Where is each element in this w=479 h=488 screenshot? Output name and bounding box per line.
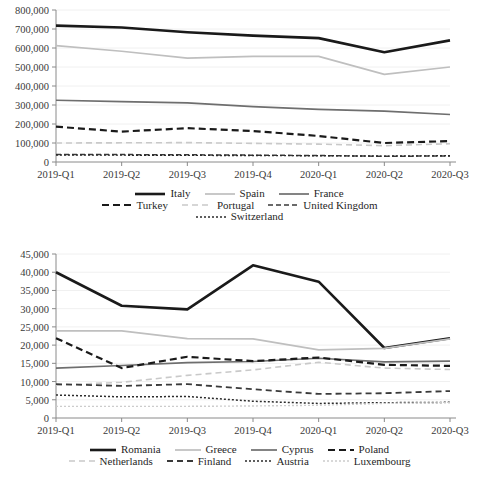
series-line-romania — [56, 265, 450, 348]
y-axis-tick-label: 20,000 — [20, 340, 49, 351]
y-axis-tick-label: 0 — [44, 413, 49, 424]
legend-swatch-italy — [135, 189, 165, 199]
bottom-line-chart-figure: 05,00010,00015,00020,00025,00030,00035,0… — [0, 240, 479, 488]
legend-label: Italy — [170, 188, 190, 200]
legend-entry-poland[interactable]: Poland — [328, 444, 390, 456]
x-axis-tick-label: 2019-Q1 — [37, 425, 74, 436]
x-axis-tick-label: 2020-Q2 — [366, 169, 403, 180]
legend-label: Poland — [359, 444, 390, 456]
x-axis-tick-label: 2020-Q1 — [300, 425, 337, 436]
legend-entry-netherlands[interactable]: Netherlands — [69, 456, 153, 468]
legend-entry-finland[interactable]: Finland — [167, 456, 232, 468]
legend-entry-turkey[interactable]: Turkey — [102, 200, 168, 212]
y-axis-tick-label: 35,000 — [20, 285, 49, 296]
y-axis-tick-label: 300,000 — [15, 100, 49, 111]
x-axis-tick-label: 2020-Q1 — [300, 169, 337, 180]
legend-entry-greece[interactable]: Greece — [175, 444, 237, 456]
legend-entry-italy[interactable]: Italy — [135, 188, 190, 200]
y-axis-tick-label: 25,000 — [20, 322, 49, 333]
y-axis-tick-label: 5,000 — [25, 395, 49, 406]
y-axis-tick-label: 800,000 — [15, 5, 49, 16]
legend-swatch-cyprus — [251, 445, 277, 455]
y-axis-tick-label: 500,000 — [15, 62, 49, 73]
legend-label: Romania — [121, 444, 161, 456]
legend-label: Finland — [198, 456, 232, 468]
legend-label: Cyprus — [282, 444, 314, 456]
legend-swatch-greece — [175, 445, 201, 455]
legend-swatch-turkey — [102, 200, 132, 210]
x-axis-tick-label: 2019-Q4 — [234, 169, 272, 180]
legend-swatch-finland — [167, 456, 193, 466]
legend-row: ItalySpainFrance — [0, 188, 479, 200]
series-line-france — [56, 100, 450, 114]
legend-swatch-austria — [245, 456, 271, 466]
x-axis-tick-label: 2019-Q4 — [234, 425, 272, 436]
legend-label: Netherlands — [100, 456, 153, 468]
legend-label: Greece — [206, 444, 237, 456]
y-axis-tick-label: 0 — [44, 157, 49, 168]
legend-label: United Kingdom — [303, 200, 377, 212]
y-axis-tick-label: 40,000 — [20, 267, 49, 278]
y-axis-tick-label: 600,000 — [15, 43, 49, 54]
legend-entry-spain[interactable]: Spain — [205, 188, 265, 200]
legend-entry-switzerland[interactable]: Switzerland — [196, 211, 284, 223]
top-line-chart-figure: 0100,000200,000300,000400,000500,000600,… — [0, 0, 479, 240]
y-axis-tick-label: 700,000 — [15, 24, 49, 35]
legend-label: Austria — [276, 456, 308, 468]
bottom-chart-legend: RomaniaGreeceCyprusPolandNetherlandsFinl… — [0, 444, 479, 467]
legend-entry-united-kingdom[interactable]: United Kingdom — [268, 200, 377, 212]
x-axis-tick-label: 2019-Q1 — [37, 169, 74, 180]
series-line-austria — [56, 395, 450, 403]
y-axis-tick-label: 100,000 — [15, 138, 49, 149]
chart-page: 0100,000200,000300,000400,000500,000600,… — [0, 0, 479, 488]
y-axis-tick-label: 10,000 — [20, 377, 49, 388]
x-axis-tick-label: 2020-Q3 — [431, 425, 468, 436]
x-axis-tick-label: 2019-Q2 — [103, 169, 140, 180]
legend-swatch-france — [279, 189, 309, 199]
legend-row: Switzerland — [0, 211, 479, 223]
y-axis-tick-label: 200,000 — [15, 119, 49, 130]
x-axis-tick-label: 2019-Q3 — [169, 169, 206, 180]
y-axis-tick-label: 400,000 — [15, 81, 49, 92]
legend-label: Luxembourg — [354, 456, 411, 468]
legend-swatch-united-kingdom — [268, 200, 298, 210]
legend-label: Switzerland — [231, 211, 284, 223]
x-axis-tick-label: 2019-Q3 — [169, 425, 206, 436]
y-axis-tick-label: 15,000 — [20, 358, 49, 369]
legend-entry-romania[interactable]: Romania — [90, 444, 161, 456]
legend-label: Turkey — [137, 200, 168, 212]
legend-label: Spain — [240, 188, 265, 200]
legend-label: France — [314, 188, 344, 200]
legend-entry-france[interactable]: France — [279, 188, 344, 200]
legend-entry-austria[interactable]: Austria — [245, 456, 308, 468]
legend-swatch-switzerland — [196, 212, 226, 222]
series-line-greece — [56, 331, 450, 350]
legend-row: RomaniaGreeceCyprusPoland — [0, 444, 479, 456]
bottom-chart-plot: 05,00010,00015,00020,00025,00030,00035,0… — [0, 240, 479, 440]
top-chart-plot: 0100,000200,000300,000400,000500,000600,… — [0, 0, 479, 186]
series-line-luxembourg — [56, 403, 450, 407]
legend-swatch-romania — [90, 445, 116, 455]
y-axis-tick-label: 30,000 — [20, 304, 49, 315]
x-axis-tick-label: 2020-Q3 — [431, 169, 468, 180]
legend-entry-luxembourg[interactable]: Luxembourg — [323, 456, 411, 468]
top-chart-legend: ItalySpainFranceTurkeyPortugalUnited Kin… — [0, 188, 479, 223]
legend-entry-cyprus[interactable]: Cyprus — [251, 444, 314, 456]
legend-swatch-spain — [205, 189, 235, 199]
legend-swatch-poland — [328, 445, 354, 455]
legend-swatch-luxembourg — [323, 456, 349, 466]
legend-swatch-netherlands — [69, 456, 95, 466]
series-line-finland — [56, 384, 450, 394]
series-line-turkey — [56, 127, 450, 143]
y-axis-tick-label: 45,000 — [20, 249, 49, 260]
x-axis-tick-label: 2020-Q2 — [366, 425, 403, 436]
x-axis-tick-label: 2019-Q2 — [103, 425, 140, 436]
legend-row: NetherlandsFinlandAustriaLuxembourg — [0, 456, 479, 468]
legend-swatch-portugal — [182, 200, 212, 210]
